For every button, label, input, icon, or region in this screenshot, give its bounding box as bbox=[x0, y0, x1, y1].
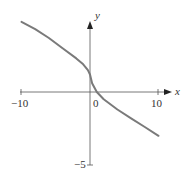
origin-label: 0 bbox=[93, 98, 99, 109]
x-min-tick-label: −10 bbox=[11, 98, 28, 109]
chart-area: y x −10 10 0 −5 bbox=[0, 0, 190, 178]
y-axis-arrow-icon bbox=[87, 21, 93, 29]
axes bbox=[20, 21, 172, 165]
x-axis-label: x bbox=[175, 86, 180, 97]
plot-svg bbox=[0, 0, 190, 178]
x-max-tick-label: 10 bbox=[151, 98, 162, 109]
y-min-tick-label: −5 bbox=[74, 159, 86, 170]
x-axis-arrow-icon bbox=[164, 89, 172, 95]
y-axis-label: y bbox=[95, 10, 100, 21]
